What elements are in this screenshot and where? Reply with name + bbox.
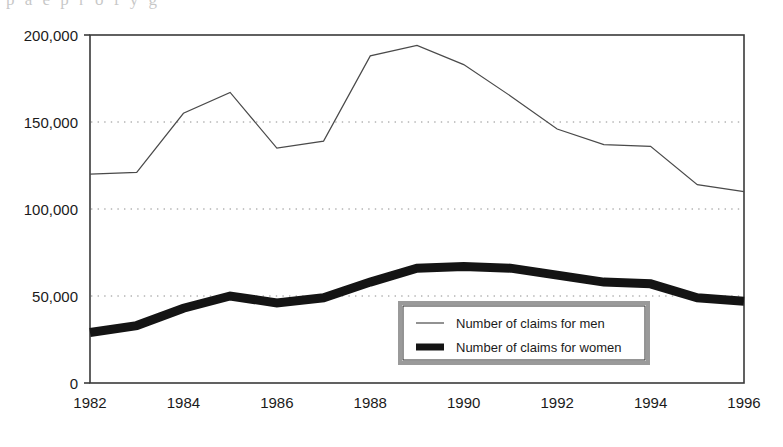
x-tick-label-1988: 1988	[354, 394, 387, 411]
line-chart: 050,000100,000150,000200,000 19821984198…	[0, 0, 783, 447]
y-tick-label-200000: 200,000	[24, 27, 78, 44]
x-tick-label-1986: 1986	[260, 394, 293, 411]
y-tick-label-150000: 150,000	[24, 114, 78, 131]
x-axis-ticks: 19821984198619881990199219941996	[73, 394, 760, 411]
legend-item-women[interactable]	[408, 336, 640, 358]
x-tick-label-1994: 1994	[634, 394, 667, 411]
x-tick-label-1990: 1990	[447, 394, 480, 411]
x-tick-label-1982: 1982	[73, 394, 106, 411]
chart-figure: p a e p r o f y g 050,000100,000150,0002…	[0, 0, 783, 447]
x-tick-label-1992: 1992	[540, 394, 573, 411]
x-tick-label-1984: 1984	[167, 394, 200, 411]
y-tick-label-0: 0	[70, 375, 78, 392]
chart-legend[interactable]: Number of claims for menNumber of claims…	[400, 303, 648, 363]
y-tick-label-100000: 100,000	[24, 201, 78, 218]
x-tick-label-1996: 1996	[727, 394, 760, 411]
legend-item-men[interactable]	[408, 312, 640, 334]
y-tick-label-50000: 50,000	[32, 288, 78, 305]
y-axis-ticks: 050,000100,000150,000200,000	[24, 27, 90, 392]
